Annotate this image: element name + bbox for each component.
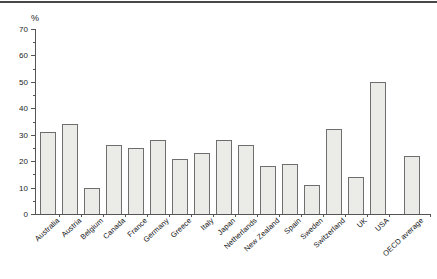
y-axis-tick-label: 0 — [24, 210, 28, 219]
y-axis-tick-label: 20 — [19, 157, 28, 166]
x-axis-category-label-text: Australia — [33, 216, 61, 243]
bar-greece — [172, 159, 188, 215]
y-axis-minor-tick — [33, 122, 36, 123]
bar-japan — [216, 140, 232, 214]
x-axis-category-label-text: Greece — [169, 216, 194, 240]
x-axis-tick — [389, 214, 390, 217]
x-axis-tick — [257, 214, 258, 217]
bar-spain — [282, 164, 298, 214]
y-axis-minor-tick — [33, 69, 36, 70]
y-axis-tick-label: 50 — [19, 77, 28, 86]
bar-sweden — [304, 185, 320, 214]
bar-uk — [348, 177, 364, 214]
y-axis-major-tick — [31, 82, 36, 83]
x-axis-tick — [213, 214, 214, 217]
y-axis-major-tick — [31, 161, 36, 162]
x-axis-tick — [147, 214, 148, 217]
y-axis-major-tick — [31, 108, 36, 109]
y-axis-unit-label: % — [31, 13, 39, 23]
y-axis-minor-tick — [33, 148, 36, 149]
bar-italy — [194, 153, 210, 214]
plot-area: 010203040506070AustraliaAustriaBelgiumCa… — [35, 29, 431, 215]
bar-belgium — [84, 188, 100, 214]
bar-france — [128, 148, 144, 214]
x-axis-category-label-text: UK — [355, 216, 369, 230]
x-axis-tick — [59, 214, 60, 217]
page-top-rule — [0, 1, 437, 3]
page: % 010203040506070AustraliaAustriaBelgium… — [0, 0, 437, 279]
y-axis-major-tick — [31, 55, 36, 56]
y-axis-major-tick — [31, 214, 36, 215]
x-axis-tick — [81, 214, 82, 217]
x-axis-tick — [191, 214, 192, 217]
y-axis-tick-label: 70 — [19, 25, 28, 34]
x-axis-tick — [323, 214, 324, 217]
x-axis-tick — [235, 214, 236, 217]
y-axis-tick-label: 40 — [19, 104, 28, 113]
y-axis-major-tick — [31, 29, 36, 30]
y-axis-tick-label: 10 — [19, 183, 28, 192]
x-axis-tick — [103, 214, 104, 217]
bar-oecd-average — [404, 156, 420, 214]
bar-australia — [40, 132, 56, 214]
y-axis-major-tick — [31, 188, 36, 189]
y-axis-minor-tick — [33, 174, 36, 175]
bar-austria — [62, 124, 78, 214]
y-axis-minor-tick — [33, 42, 36, 43]
bar-germany — [150, 140, 166, 214]
y-axis-minor-tick — [33, 95, 36, 96]
y-axis-tick-label: 30 — [19, 130, 28, 139]
bar-new-zealand — [260, 166, 276, 214]
x-axis-tick — [169, 214, 170, 217]
x-axis-category-label-text: USA — [373, 216, 391, 233]
x-axis-tick — [345, 214, 346, 217]
bar-switzerland — [326, 129, 342, 214]
x-axis-tick — [279, 214, 280, 217]
x-axis-end-tick — [430, 214, 431, 217]
x-axis-category-label-text: Canada — [101, 216, 127, 241]
x-axis-tick — [301, 214, 302, 217]
x-axis-tick — [367, 214, 368, 217]
x-axis-tick — [125, 214, 126, 217]
bar-usa — [370, 82, 386, 214]
bar-canada — [106, 145, 122, 214]
x-axis-category-label-text: Belgium — [79, 216, 105, 242]
y-axis-major-tick — [31, 135, 36, 136]
x-axis-category-label-text: Italy — [199, 216, 216, 232]
y-axis-tick-label: 60 — [19, 51, 28, 60]
y-axis-minor-tick — [33, 201, 36, 202]
bar-netherlands — [238, 145, 254, 214]
